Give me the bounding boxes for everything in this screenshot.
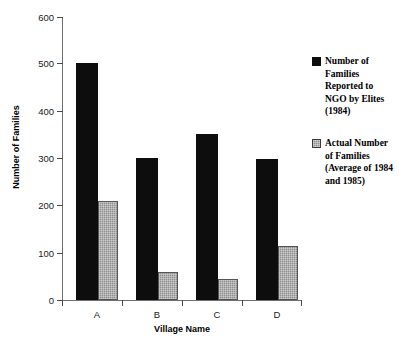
y-tick-mark xyxy=(57,63,63,64)
x-tick-mark xyxy=(122,300,123,306)
bar-actual-C xyxy=(218,279,238,300)
chart-legend: Number of Families Reported to NGO by El… xyxy=(312,55,413,206)
bar-reported-B xyxy=(136,158,158,300)
x-tick-mark xyxy=(242,300,243,306)
plot-area: 0 100 200 300 400 500 600 xyxy=(62,17,302,301)
x-axis-label: Village Name xyxy=(62,324,302,334)
legend-swatch-gray-icon xyxy=(312,139,321,148)
y-tick-mark xyxy=(57,17,63,18)
x-category-label-D: D xyxy=(274,309,281,320)
y-tick-label-600: 600 xyxy=(38,12,54,23)
y-tick-label-500: 500 xyxy=(38,58,54,69)
y-tick-label-100: 100 xyxy=(38,247,54,258)
x-category-label-C: C xyxy=(214,309,221,320)
y-tick-mark xyxy=(57,253,63,254)
y-tick-label-200: 200 xyxy=(38,200,54,211)
x-category-label-A: A xyxy=(94,309,100,320)
legend-label-actual: Actual Number of Families (Average of 19… xyxy=(325,137,413,187)
legend-item-actual: Actual Number of Families (Average of 19… xyxy=(312,137,413,187)
y-tick-mark xyxy=(57,158,63,159)
bar-reported-C xyxy=(196,134,218,300)
legend-item-reported: Number of Families Reported to NGO by El… xyxy=(312,55,413,118)
y-tick-mark xyxy=(57,205,63,206)
legend-label-reported: Number of Families Reported to NGO by El… xyxy=(325,55,413,118)
bar-chart: Number of Families 0 100 200 300 400 500 xyxy=(0,0,413,350)
bar-reported-A xyxy=(76,63,98,300)
x-tick-mark xyxy=(62,300,63,306)
y-axis-line xyxy=(62,17,63,301)
x-tick-mark xyxy=(301,300,302,306)
y-tick-label-400: 400 xyxy=(38,105,54,116)
x-tick-mark xyxy=(182,300,183,306)
y-tick-mark xyxy=(57,111,63,112)
bar-actual-A xyxy=(98,201,118,300)
bar-actual-D xyxy=(278,246,298,300)
y-tick-label-300: 300 xyxy=(38,153,54,164)
legend-swatch-black-icon xyxy=(312,57,321,66)
bar-actual-B xyxy=(158,272,178,300)
y-axis-label: Number of Families xyxy=(11,87,21,207)
bar-reported-D xyxy=(256,159,278,300)
y-tick-label-0: 0 xyxy=(49,295,54,306)
x-category-label-B: B xyxy=(154,309,160,320)
